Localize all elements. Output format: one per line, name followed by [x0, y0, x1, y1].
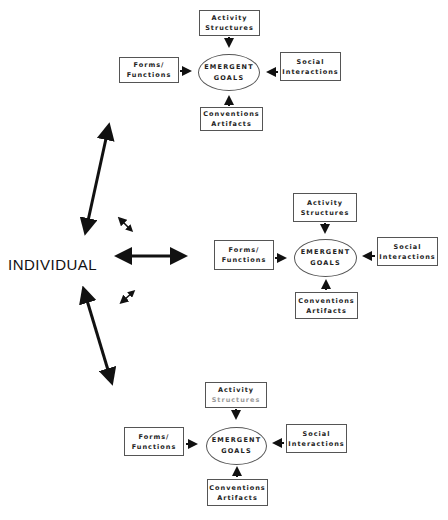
- d3-activity-structures-box: Activity Structures: [205, 382, 267, 408]
- d3-social-interactions-box: Social Interactions: [286, 424, 347, 453]
- arrow-to-top-diagram: [86, 134, 107, 230]
- d2-social-line1: Social: [394, 242, 422, 252]
- d1-forms-line2: Functions: [127, 70, 172, 80]
- d3-goals-line2: GOALS: [221, 446, 252, 457]
- d1-conventions-line2: Artifacts: [211, 119, 252, 129]
- d1-social-line2: Interactions: [282, 67, 338, 77]
- d3-social-line1: Social: [303, 429, 331, 439]
- d1-conventions-line1: Conventions: [203, 109, 259, 119]
- d1-emergent-goals-ellipse: EMERGENT GOALS: [198, 54, 260, 91]
- d3-goals-line1: EMERGENT: [212, 435, 262, 446]
- d2-conventions-line1: Conventions: [298, 296, 354, 306]
- d2-social-interactions-box: Social Interactions: [377, 237, 438, 266]
- d3-conventions-line1: Conventions: [209, 483, 265, 493]
- small-arrow-lower: [124, 292, 133, 300]
- d2-conventions-line2: Artifacts: [306, 306, 347, 316]
- arrow-to-bottom-diagram: [86, 297, 111, 380]
- d1-social-interactions-box: Social Interactions: [280, 52, 341, 81]
- d2-goals-line2: GOALS: [310, 258, 341, 269]
- d3-conventions-line2: Artifacts: [217, 493, 258, 503]
- d1-goals-line1: EMERGENT: [204, 62, 254, 73]
- d1-activity-line1: Activity: [211, 13, 247, 23]
- d1-forms-line1: Forms/: [134, 60, 165, 70]
- individual-label: INDIVIDUAL: [8, 256, 97, 273]
- d3-forms-line1: Forms/: [139, 432, 170, 442]
- d3-forms-line2: Functions: [132, 442, 177, 452]
- d3-activity-line1: Activity: [218, 385, 254, 395]
- d2-forms-functions-box: Forms/ Functions: [214, 240, 274, 270]
- d1-social-line1: Social: [297, 57, 325, 67]
- d3-conventions-artifacts-box: Conventions Artifacts: [207, 479, 268, 506]
- small-arrow-upper: [122, 221, 131, 230]
- d2-activity-structures-box: Activity Structures: [293, 193, 357, 222]
- d2-activity-line2: Structures: [301, 208, 350, 218]
- d2-emergent-goals-ellipse: EMERGENT GOALS: [294, 239, 357, 277]
- d2-social-line2: Interactions: [379, 252, 435, 262]
- d3-activity-line2: Structures: [212, 395, 261, 405]
- d1-activity-structures-box: Activity Structures: [199, 10, 260, 36]
- d2-forms-line2: Functions: [222, 255, 267, 265]
- d1-conventions-artifacts-box: Conventions Artifacts: [200, 107, 263, 131]
- d3-forms-functions-box: Forms/ Functions: [124, 427, 184, 456]
- d3-social-line2: Interactions: [288, 439, 344, 449]
- d1-goals-line2: GOALS: [214, 73, 245, 84]
- d2-activity-line1: Activity: [307, 198, 343, 208]
- d1-activity-line2: Structures: [205, 23, 254, 33]
- d2-conventions-artifacts-box: Conventions Artifacts: [295, 292, 358, 319]
- d2-goals-line1: EMERGENT: [301, 247, 351, 258]
- d1-forms-functions-box: Forms/ Functions: [119, 57, 179, 83]
- d3-emergent-goals-ellipse: EMERGENT GOALS: [206, 427, 267, 465]
- d2-forms-line1: Forms/: [229, 245, 260, 255]
